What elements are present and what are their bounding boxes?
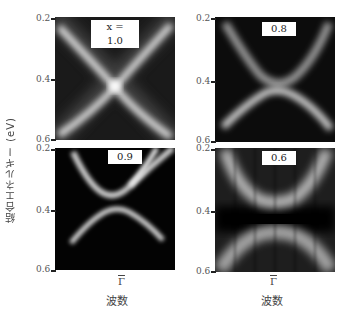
x-tick-gamma: Γ: [270, 276, 277, 287]
y-tick-label: 0.2: [196, 13, 210, 23]
panel-x-1-0: x = 1.0: [55, 17, 175, 140]
y-tick-mark: [211, 81, 216, 83]
y-tick-label: 0.2: [36, 13, 50, 23]
y-tick-label: 0.2: [196, 143, 210, 153]
y-tick-mark: [51, 18, 56, 20]
y-tick-mark: [51, 270, 56, 272]
y-tick-mark: [51, 149, 56, 151]
y-tick-mark: [211, 18, 216, 20]
panel-0-9: 0.9: [55, 148, 175, 270]
y-tick-label: 0.4: [196, 206, 210, 216]
y-tick-label: 0.2: [36, 143, 50, 153]
y-tick-label: 0.4: [36, 205, 50, 215]
y-tick-label: 0.6: [196, 266, 210, 276]
x-axis-label: 波数: [106, 292, 128, 308]
panel-0-8: 0.8: [215, 17, 335, 142]
band-dispersion-image: [55, 148, 175, 270]
y-axis-label: 結合エネルギー (eV): [3, 90, 17, 250]
y-tick-mark: [211, 149, 216, 151]
y-tick-label: 0.6: [36, 264, 50, 274]
panel-label: 0.6: [262, 151, 296, 165]
band-dispersion-image: [215, 148, 335, 272]
y-tick-mark: [51, 139, 56, 141]
x-tick-gamma: Γ: [118, 276, 125, 287]
y-tick-mark: [211, 141, 216, 143]
y-tick-mark: [211, 271, 216, 273]
arpes-figure: 結合エネルギー (eV) x = 1.0 0.8: [0, 0, 354, 317]
y-tick-label: 0.4: [196, 76, 210, 86]
panel-label: 0.9: [108, 150, 142, 164]
y-tick-mark: [51, 210, 56, 212]
panel-0-6: 0.6: [215, 148, 335, 272]
y-tick-label: 0.4: [36, 74, 50, 84]
x-axis-label: 波数: [261, 292, 283, 308]
panel-label: x = 1.0: [91, 20, 139, 48]
y-tick-mark: [51, 79, 56, 81]
y-tick-mark: [211, 211, 216, 213]
panel-label: 0.8: [262, 22, 296, 36]
